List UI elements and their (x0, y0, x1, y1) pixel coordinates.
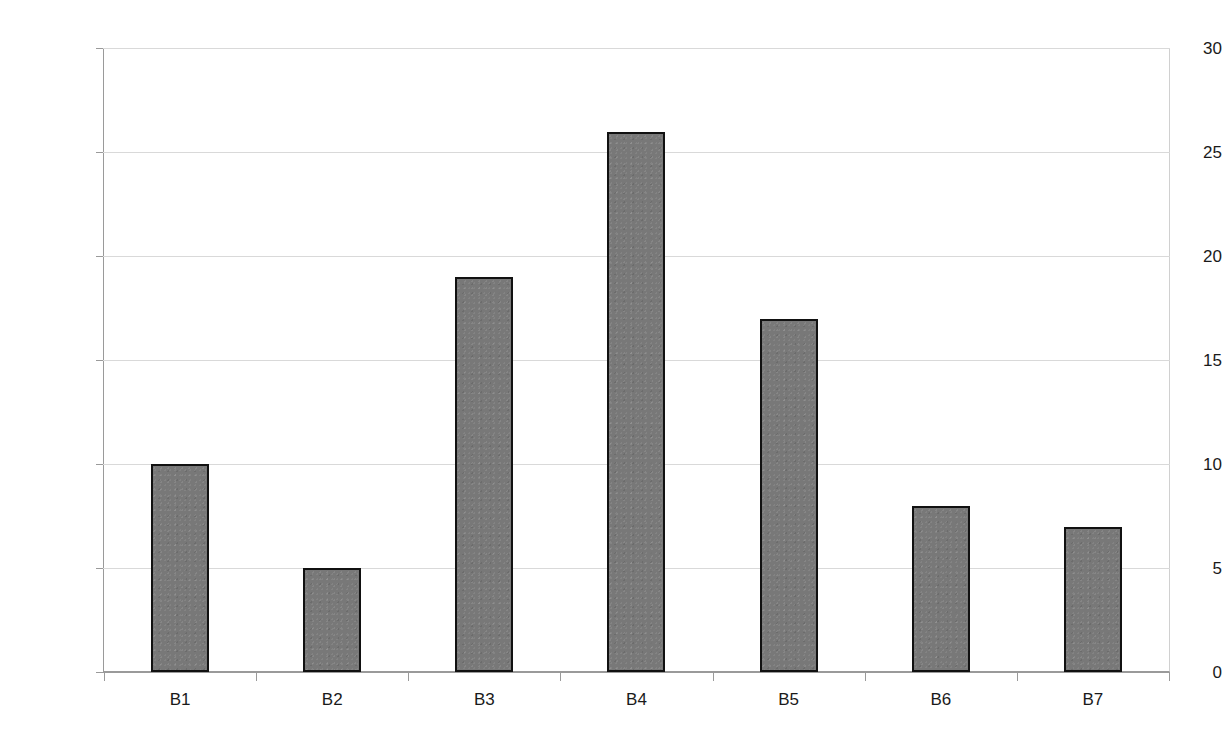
y-axis-tick-0 (96, 672, 103, 673)
bar-slot (256, 49, 408, 672)
x-axis-label-B4: B4 (561, 690, 713, 710)
bar-B3[interactable] (455, 277, 513, 672)
bar-slot (408, 49, 560, 672)
bar-B1[interactable] (151, 464, 209, 672)
x-axis-tick (713, 672, 714, 681)
y-axis-tick-5 (96, 568, 103, 569)
bar-slot (713, 49, 865, 672)
y-axis-tick-10 (96, 464, 103, 465)
x-axis-label-B2: B2 (256, 690, 408, 710)
y-axis-tick-25 (96, 152, 103, 153)
bar-slot (104, 49, 256, 672)
y-axis-tick-15 (96, 360, 103, 361)
x-axis-label-B5: B5 (713, 690, 865, 710)
x-axis-tick (104, 672, 105, 681)
x-axis-tick (408, 672, 409, 681)
bar-B7[interactable] (1064, 527, 1122, 672)
x-axis-tick (1169, 672, 1170, 681)
bar-B2[interactable] (303, 568, 361, 672)
y-axis-tick-20 (96, 256, 103, 257)
bar-slot (560, 49, 712, 672)
bars-group (104, 49, 1170, 672)
x-axis-tick (1017, 672, 1018, 681)
x-axis-label-B1: B1 (104, 690, 256, 710)
x-axis-label-B7: B7 (1017, 690, 1169, 710)
bar-slot (1017, 49, 1169, 672)
x-axis-tick (256, 672, 257, 681)
x-axis-label-B3: B3 (408, 690, 560, 710)
bar-B4[interactable] (607, 132, 665, 672)
bar-chart: 051015202530 B1B2B3B4B5B6B7 (0, 0, 1232, 756)
y-axis-tick-30 (96, 48, 103, 49)
x-axis-tick (865, 672, 866, 681)
bar-slot (865, 49, 1017, 672)
x-axis-label-B6: B6 (865, 690, 1017, 710)
bar-B6[interactable] (912, 506, 970, 672)
x-axis-tick (560, 672, 561, 681)
bar-B5[interactable] (760, 319, 818, 672)
